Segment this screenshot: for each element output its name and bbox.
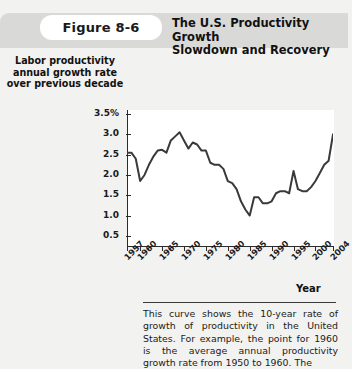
y-axis-tick-label: 2.5 (79, 149, 119, 159)
y-axis-tick-label: 1.0 (79, 210, 119, 220)
y-axis-tick-mark (126, 134, 131, 135)
y-axis-tick-label: 3.5% (79, 108, 119, 118)
figure-caption: This curve shows the 10-year rate of gro… (143, 302, 338, 369)
caption-text: This curve shows the 10-year rate of gro… (143, 308, 338, 369)
caption-divider (143, 302, 336, 303)
productivity-growth-line (127, 132, 333, 215)
y-axis-tick-label: 1.5 (79, 189, 119, 199)
chart-plot-region: 3.5%3.02.52.01.51.00.5 19571960196519701… (0, 0, 348, 300)
y-axis-tick-mark (126, 175, 131, 176)
y-axis-tick-label: 2.0 (79, 169, 119, 179)
y-axis-tick-mark (126, 155, 131, 156)
y-axis-tick-mark (126, 114, 131, 115)
x-axis-title: Year (296, 283, 321, 294)
y-axis-tick-mark (126, 216, 131, 217)
y-axis-tick-label: 0.5 (79, 230, 119, 240)
productivity-line-chart (127, 110, 333, 246)
y-axis-tick-mark (126, 195, 131, 196)
y-axis-tick-mark (126, 236, 131, 237)
y-axis-tick-label: 3.0 (79, 128, 119, 138)
